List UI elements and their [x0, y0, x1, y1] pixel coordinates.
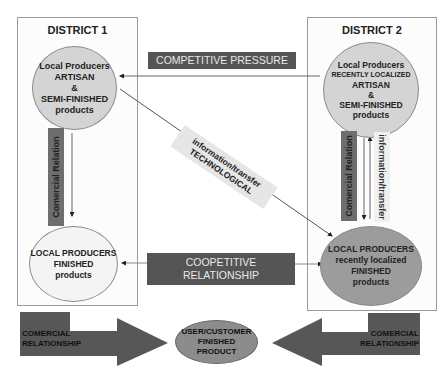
- node-line: Local Producers: [39, 61, 110, 72]
- node-line: LOCAL PRODUCERS: [31, 248, 117, 259]
- node-line: products: [353, 277, 389, 288]
- label-line: COMERCIAL: [360, 329, 419, 339]
- d1-finished-node: LOCAL PRODUCERS FINISHED products: [29, 226, 118, 302]
- right-commercial-relationship-label: COMERCIAL RELATIONSHIP: [360, 329, 419, 349]
- d2-information-transfer-label: information/transfer: [374, 132, 390, 222]
- label-line: RELATIONSHIP: [360, 339, 419, 349]
- d2-artisan-node: Local Producers RECENTLY LOCALIZED ARTIS…: [323, 42, 419, 138]
- d2-commercial-relation-label: Comercial Relation: [341, 131, 357, 221]
- vertical-label-text: Comercial Relation: [51, 136, 61, 218]
- cooperative-relationship-label: COOPETITIVE RELATIONSHIP: [147, 253, 295, 285]
- d1-artisan-node: Local Producers ARTISAN & SEMI-FINISHED …: [32, 46, 117, 130]
- label-line: RELATIONSHIP: [22, 339, 81, 349]
- node-line: &: [71, 83, 78, 94]
- node-line: Local Producers: [338, 60, 405, 70]
- node-line: ARTISAN: [55, 72, 95, 83]
- d2-finished-node: LOCAL PRODUCERS recently localized FINIS…: [320, 226, 422, 306]
- label-line: COOPETITIVE: [147, 256, 295, 269]
- node-line: &: [368, 90, 374, 100]
- vertical-label-text: information/transfer: [377, 134, 387, 220]
- node-line: FINISHED: [351, 266, 391, 277]
- competitive-pressure-label: COMPETITIVE PRESSURE: [148, 52, 296, 69]
- node-line: recently localized: [336, 255, 407, 266]
- customer-node: USER/CUSTOMER FINISHED PRODUCT: [175, 320, 258, 364]
- node-line: RECENTLY LOCALIZED: [332, 70, 411, 80]
- node-line: PRODUCT: [197, 347, 237, 357]
- d1-commercial-relation-label: Comercial Relation: [48, 128, 64, 226]
- label-line: RELATIONSHIP: [147, 269, 295, 282]
- node-line: USER/CUSTOMER: [181, 327, 251, 337]
- node-line: products: [55, 270, 91, 281]
- node-line: SEMI-FINISHED: [339, 100, 402, 110]
- node-line: products: [353, 110, 389, 120]
- left-commercial-relationship-label: COMERCIAL RELATIONSHIP: [22, 329, 81, 349]
- node-line: FINISHED: [198, 337, 235, 347]
- label-line: COMERCIAL: [22, 329, 81, 339]
- node-line: products: [55, 105, 94, 116]
- node-line: ARTISAN: [352, 80, 390, 90]
- node-line: LOCAL PRODUCERS: [328, 244, 414, 255]
- node-line: SEMI-FINISHED: [41, 94, 108, 105]
- node-line: FINISHED: [54, 259, 94, 270]
- vertical-label-text: Comercial Relation: [344, 135, 354, 217]
